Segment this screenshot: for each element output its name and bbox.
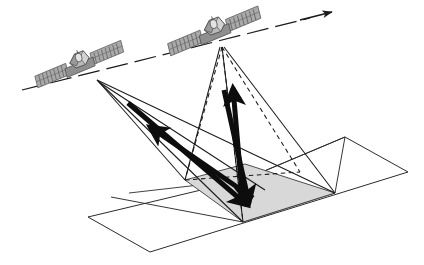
diagram-canvas xyxy=(0,0,424,265)
satellite-geometry-diagram xyxy=(0,0,424,265)
